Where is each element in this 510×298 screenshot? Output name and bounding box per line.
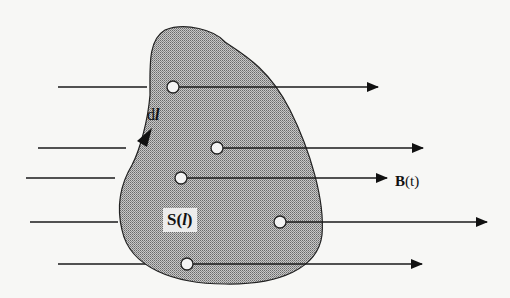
dl-label: dl (147, 106, 159, 124)
entry-point-icon (175, 172, 187, 184)
entry-point-icon (211, 142, 223, 154)
entry-point-icon (181, 258, 193, 270)
diagram-svg (0, 0, 510, 298)
surface-region (119, 27, 322, 284)
entry-point-icon (167, 81, 179, 93)
flux-diagram: dl B(t) S(l) (0, 0, 510, 298)
field-label: B(t) (395, 173, 419, 190)
surface-label: S(l) (163, 208, 197, 232)
entry-point-icon (274, 216, 286, 228)
